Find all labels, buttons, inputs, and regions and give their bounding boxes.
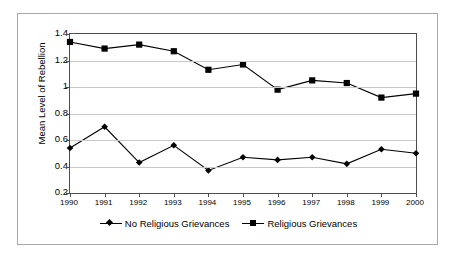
y-axis-tick-label: 1.4 <box>42 28 68 38</box>
legend-item[interactable]: Religious Grievances <box>242 218 357 229</box>
diamond-marker-icon <box>100 219 122 229</box>
y-axis-tick-label: 0.4 <box>42 161 68 171</box>
x-axis-tick-labels: 1990199119921993199419951996199719981999… <box>69 14 417 246</box>
y-axis-tick-labels: 0.20.40.60.811.21.4 <box>40 14 68 246</box>
y-axis-tick-label: 0.2 <box>42 187 68 197</box>
y-axis-tick-label: 1.2 <box>42 55 68 65</box>
y-axis-tick-label: 1 <box>42 81 68 91</box>
chart-legend: No Religious GrievancesReligious Grievan… <box>18 218 439 229</box>
legend-item-label: Religious Grievances <box>267 218 357 229</box>
legend-item-label: No Religious Grievances <box>125 218 230 229</box>
x-axis-tick-label: 2000 <box>393 199 437 207</box>
legend-item[interactable]: No Religious Grievances <box>100 218 230 229</box>
square-marker-icon <box>242 219 264 229</box>
chart-figure: Mean Level of Rebellion 0.20.40.60.811.2… <box>17 13 438 245</box>
y-axis-tick-label: 0.8 <box>42 108 68 118</box>
chart-plot-container: Mean Level of Rebellion 0.20.40.60.811.2… <box>18 14 439 246</box>
y-axis-tick-label: 0.6 <box>42 134 68 144</box>
